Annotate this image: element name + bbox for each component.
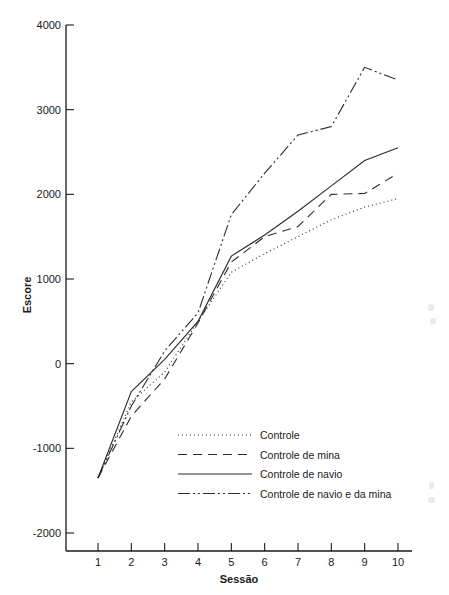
legend-label-0: Controle	[260, 429, 300, 441]
x-tick-label: 4	[195, 556, 201, 568]
y-axis-title: Escore	[21, 277, 33, 314]
y-tick-label: 3000	[37, 104, 61, 116]
scan-artifact	[430, 318, 436, 324]
data-series-group	[98, 67, 398, 478]
scan-artifact	[429, 482, 434, 489]
legend-label-1: Controle de mina	[260, 449, 340, 461]
x-tick-label: 5	[228, 556, 234, 568]
x-tick-label: 7	[295, 556, 301, 568]
x-tick-label: 10	[392, 556, 404, 568]
x-axis-tick-labels: 12345678910	[95, 556, 404, 568]
y-tick-label: -2000	[33, 527, 61, 539]
y-tick-label: 1000	[37, 273, 61, 285]
series-line-2	[98, 148, 398, 478]
legend-label-3: Controle de navio e da mina	[260, 488, 391, 500]
chart-legend: ControleControle de minaControle de navi…	[178, 429, 391, 500]
scan-artifact	[428, 497, 435, 503]
line-chart: -2000-100001000200030004000 12345678910 …	[0, 0, 449, 595]
series-line-3	[98, 67, 398, 478]
y-axis-tick-labels: -2000-100001000200030004000	[33, 19, 61, 539]
y-axis-ticks	[66, 25, 74, 533]
legend-label-2: Controle de navio	[260, 468, 342, 480]
series-line-0	[98, 199, 398, 478]
x-axis-title: Sessão	[220, 573, 259, 585]
scan-artifact	[428, 304, 434, 311]
x-tick-label: 3	[162, 556, 168, 568]
y-tick-label: 4000	[37, 19, 61, 31]
y-tick-label: 0	[55, 358, 61, 370]
chart-figure: -2000-100001000200030004000 12345678910 …	[0, 0, 449, 595]
x-tick-label: 9	[362, 556, 368, 568]
y-tick-label: -1000	[33, 442, 61, 454]
x-tick-label: 8	[328, 556, 334, 568]
series-line-1	[98, 173, 398, 478]
x-axis-ticks	[98, 543, 398, 551]
x-tick-label: 2	[128, 556, 134, 568]
x-tick-label: 6	[262, 556, 268, 568]
y-tick-label: 2000	[37, 188, 61, 200]
x-tick-label: 1	[95, 556, 101, 568]
